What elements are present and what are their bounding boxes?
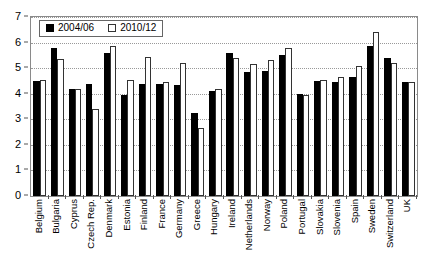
bar xyxy=(180,63,186,196)
x-tick-mark xyxy=(258,195,259,199)
bar-group xyxy=(49,17,67,196)
x-tick-label: UK xyxy=(402,199,412,212)
x-axis: BelgiumBulgariaCyprusCzech Rep.DenmarkEs… xyxy=(30,199,418,273)
bar-chart: 01234567 BelgiumBulgariaCyprusCzech Rep.… xyxy=(0,0,426,273)
x-tick-label: Ireland xyxy=(227,199,237,228)
x-tick-label: Estonia xyxy=(122,199,132,231)
y-tick-mark xyxy=(24,169,28,170)
x-tick-label: Hungary xyxy=(209,199,219,235)
x-tick-label: Bulgaria xyxy=(51,199,61,234)
bar-group xyxy=(347,17,365,196)
x-tick-mark xyxy=(276,195,277,199)
bar-group xyxy=(259,17,277,196)
bar xyxy=(391,63,397,196)
x-tick-mark xyxy=(328,195,329,199)
bar xyxy=(198,128,204,196)
x-tick-label: Sweden xyxy=(367,199,377,233)
x-tick-mark xyxy=(346,195,347,199)
x-tick-label: Belgium xyxy=(34,199,44,233)
y-tick-mark xyxy=(24,67,28,68)
y-tick-label: 7 xyxy=(15,11,21,22)
bar-group xyxy=(136,17,154,196)
legend-label: 2010/12 xyxy=(120,23,156,33)
bar xyxy=(75,89,81,196)
bar xyxy=(356,66,362,196)
y-tick-label: 3 xyxy=(15,113,21,124)
bar-group xyxy=(242,17,260,196)
bar-group xyxy=(329,17,347,196)
bar xyxy=(320,80,326,196)
bar-group xyxy=(294,17,312,196)
x-tick-mark xyxy=(65,195,66,199)
x-tick-label: France xyxy=(157,199,167,229)
bar-group xyxy=(277,17,295,196)
bar xyxy=(268,60,274,196)
bar-group xyxy=(364,17,382,196)
y-tick-mark xyxy=(24,118,28,119)
x-tick-label: Poland xyxy=(279,199,289,229)
x-tick-label: Czech Rep. xyxy=(86,199,96,249)
bar-group xyxy=(224,17,242,196)
x-tick-mark xyxy=(363,195,364,199)
y-tick-mark xyxy=(24,143,28,144)
x-tick-mark xyxy=(223,195,224,199)
x-tick-mark xyxy=(398,195,399,199)
y-tick-label: 0 xyxy=(15,190,21,201)
bar xyxy=(40,80,46,196)
bar-group xyxy=(189,17,207,196)
x-tick-mark xyxy=(381,195,382,199)
bar xyxy=(127,80,133,196)
bar-group xyxy=(206,17,224,196)
x-tick-label: Slovakia xyxy=(315,199,325,235)
bar-group xyxy=(399,17,417,196)
x-tick-label: Greece xyxy=(192,199,202,230)
y-tick-label: 1 xyxy=(15,164,21,175)
x-tick-mark xyxy=(416,195,417,199)
bar-group xyxy=(84,17,102,196)
x-tick-label: Netherlands xyxy=(244,199,254,250)
bar xyxy=(250,64,256,196)
x-tick-mark xyxy=(135,195,136,199)
plot-area xyxy=(31,17,417,196)
bar xyxy=(303,95,309,196)
y-tick-mark xyxy=(24,195,28,196)
y-tick-label: 2 xyxy=(15,138,21,149)
y-tick-label: 6 xyxy=(15,36,21,47)
bar-group xyxy=(382,17,400,196)
x-tick-mark xyxy=(205,195,206,199)
bar xyxy=(92,109,98,196)
legend-entry-2010-12: 2010/12 xyxy=(108,23,156,33)
bar xyxy=(110,46,116,196)
bar xyxy=(233,58,239,196)
x-tick-mark xyxy=(188,195,189,199)
bar-group xyxy=(154,17,172,196)
plot-frame xyxy=(30,16,418,197)
x-tick-mark xyxy=(293,195,294,199)
bar xyxy=(163,82,169,196)
x-tick-mark xyxy=(170,195,171,199)
x-tick-label: Spain xyxy=(350,199,360,223)
x-tick-mark xyxy=(83,195,84,199)
bar xyxy=(338,77,344,196)
x-tick-label: Portugal xyxy=(297,199,307,234)
bar-group xyxy=(66,17,84,196)
bar xyxy=(373,32,379,196)
bar xyxy=(215,89,221,196)
y-tick-label: 4 xyxy=(15,87,21,98)
x-tick-label: Switzerland xyxy=(385,199,395,248)
x-tick-label: Cyprus xyxy=(69,199,79,229)
x-tick-mark xyxy=(100,195,101,199)
x-tick-label: Slovenia xyxy=(332,199,342,235)
x-tick-mark xyxy=(153,195,154,199)
bar xyxy=(408,82,414,196)
x-tick-mark xyxy=(311,195,312,199)
x-tick-mark xyxy=(241,195,242,199)
x-tick-label: Germany xyxy=(174,199,184,238)
x-tick-mark xyxy=(118,195,119,199)
bar-group xyxy=(312,17,330,196)
x-tick-label: Finland xyxy=(139,199,149,230)
bar-group xyxy=(31,17,49,196)
y-axis: 01234567 xyxy=(0,16,28,197)
bar xyxy=(285,48,291,196)
bar xyxy=(57,59,63,196)
